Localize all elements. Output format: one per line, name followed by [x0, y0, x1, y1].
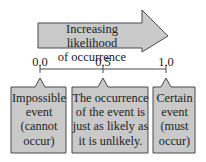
- tick-label-0-5: 0.5: [88, 55, 118, 70]
- box-line: it is unlikely.: [72, 134, 149, 148]
- equal-likelihood-text: The occurrence of the event is just as l…: [72, 91, 149, 148]
- box-line: Certain: [153, 91, 196, 105]
- box-line: event: [11, 105, 67, 119]
- tick-label-1: 1.0: [151, 55, 181, 70]
- tick-label-0: 0.0: [25, 55, 55, 70]
- box-line: (must: [153, 119, 196, 133]
- box-line: Impossible: [11, 91, 67, 105]
- box-line: occur): [11, 134, 67, 148]
- box-line: The occurrence: [72, 91, 149, 105]
- box-line: occur): [153, 134, 196, 148]
- box-line: event: [153, 105, 196, 119]
- arrow-label-line1: Increasing likelihood: [40, 22, 144, 50]
- certain-event-text: Certain event (must occur): [153, 91, 196, 148]
- impossible-event-text: Impossible event (cannot occur): [11, 91, 67, 148]
- box-line: just as likely as: [72, 119, 149, 133]
- box-line: of the event is: [72, 105, 149, 119]
- box-line: (cannot: [11, 119, 67, 133]
